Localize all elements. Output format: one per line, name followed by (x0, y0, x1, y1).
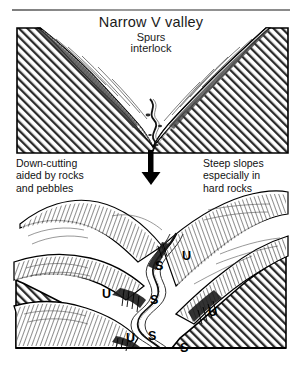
spur-label-u-2: U (102, 287, 111, 301)
spur-label-s-2: S (150, 293, 158, 307)
v-valley-cross-section (16, 27, 289, 154)
spur-label-u-3: U (208, 305, 217, 319)
spur-label-s-3: S (148, 329, 156, 343)
figure-page: Narrow V valley Spurs interlock (0, 0, 302, 366)
down-arrow-svg (139, 150, 163, 186)
clipped-bottom-caption (16, 359, 216, 366)
interlocking-spurs-block-diagram: S U U S U U S S (12, 188, 290, 356)
down-arrow-icon (139, 150, 163, 186)
caption-right-line1: Steep slopes (203, 157, 299, 169)
caption-right-line2: especially in (203, 169, 299, 181)
caption-left-line2: aided by rocks (16, 169, 136, 181)
spur-label-u-1: U (182, 249, 191, 263)
v-valley-svg (16, 27, 289, 154)
interlocking-spurs-svg: S U U S U U S S (12, 188, 290, 356)
spur-label-s-1: S (155, 259, 163, 273)
top-divider-rule (12, 9, 290, 11)
caption-left-line1: Down-cutting (16, 157, 136, 169)
spur-label-u-4: U (126, 331, 135, 345)
